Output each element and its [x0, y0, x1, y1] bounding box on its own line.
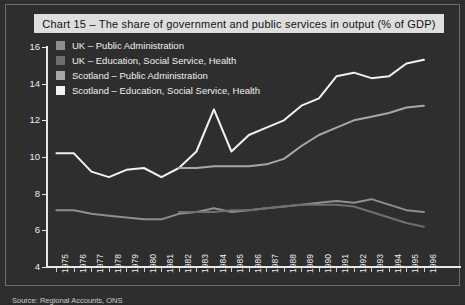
x-axis-tick-mark — [266, 268, 267, 272]
y-axis-tick-mark — [42, 157, 46, 158]
x-axis-tick-mark — [406, 268, 407, 272]
x-axis-tick-mark — [109, 268, 110, 272]
x-axis-tick-mark — [249, 268, 250, 272]
y-axis-tick-label: 6 — [18, 224, 40, 235]
y-axis-tick-mark — [42, 47, 46, 48]
legend-swatch-icon — [56, 41, 65, 50]
legend-item: Scotland – Public Administration — [56, 68, 260, 83]
x-axis-tick-mark — [196, 268, 197, 272]
chart-frame: Chart 15 – The share of government and p… — [5, 4, 460, 286]
x-axis-tick-mark — [336, 268, 337, 272]
y-axis-tick-label: 4 — [18, 261, 40, 272]
y-axis-tick-label: 10 — [18, 151, 40, 162]
legend-swatch-icon — [56, 71, 65, 80]
y-axis-tick-label: 12 — [18, 114, 40, 125]
x-axis-tick-mark — [319, 268, 320, 272]
x-axis-tick-mark — [354, 268, 355, 272]
chart-source-note: Source: Regional Accounts, ONS — [12, 296, 122, 305]
x-axis-tick-mark — [91, 268, 92, 272]
y-axis-tick-mark — [42, 230, 46, 231]
x-axis-tick-mark — [301, 268, 302, 272]
x-axis-tick-mark — [389, 268, 390, 272]
x-axis-tick-mark — [74, 268, 75, 272]
legend-item: UK – Public Administration — [56, 38, 260, 53]
page-title: Chart 15 – The share of government and p… — [42, 18, 435, 30]
legend-item: Scotland – Education, Social Service, He… — [56, 83, 260, 98]
y-axis-tick-label: 8 — [18, 188, 40, 199]
y-axis-tick-mark — [42, 267, 46, 268]
legend-item-label: Scotland – Education, Social Service, He… — [72, 85, 260, 96]
legend-item-label: UK – Public Administration — [72, 40, 184, 51]
x-axis-tick-mark — [126, 268, 127, 272]
legend-item: UK – Education, Social Service, Health — [56, 53, 260, 68]
y-axis-tick-mark — [42, 194, 46, 195]
x-axis-tick-mark — [161, 268, 162, 272]
chart-title-banner: Chart 15 – The share of government and p… — [34, 14, 444, 33]
x-axis-tick-mark — [424, 268, 425, 272]
y-axis-tick-mark — [42, 84, 46, 85]
y-axis-tick-label: 14 — [18, 78, 40, 89]
y-axis-tick-mark — [42, 120, 46, 121]
x-axis-tick-mark — [144, 268, 145, 272]
x-axis-tick-mark — [56, 268, 57, 272]
x-axis-tick-mark — [231, 268, 232, 272]
x-axis-tick-mark — [214, 268, 215, 272]
x-axis-tick-mark — [371, 268, 372, 272]
x-axis-tick-mark — [284, 268, 285, 272]
x-axis-tick-mark — [179, 268, 180, 272]
legend-swatch-icon — [56, 56, 65, 65]
legend-item-label: Scotland – Public Administration — [72, 70, 208, 81]
y-axis-tick-label: 16 — [18, 41, 40, 52]
chart-legend: UK – Public Administration UK – Educatio… — [56, 38, 260, 98]
legend-item-label: UK – Education, Social Service, Health — [72, 55, 236, 66]
legend-swatch-icon — [56, 86, 65, 95]
